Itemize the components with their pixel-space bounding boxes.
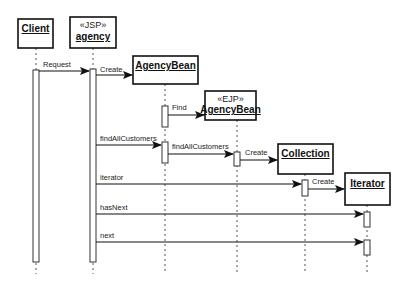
message-label: Find [172, 103, 187, 112]
activation-iterator-next [364, 240, 370, 255]
activation-agencybean-find [162, 106, 168, 127]
message-label: iterator [100, 173, 124, 182]
message-label: Request [43, 60, 72, 69]
message-label: Create [100, 65, 123, 74]
activation-ejp-findall [234, 152, 240, 166]
activation-iterator-hasnext [364, 212, 370, 227]
message-label: next [100, 231, 115, 240]
participant-name: Client [22, 23, 50, 34]
participant-name: AgencyBean [200, 104, 261, 115]
participant-name: Iterator [350, 178, 385, 189]
activation-collection [302, 180, 308, 196]
activation-client [33, 70, 39, 262]
participant-name: agency [76, 31, 111, 42]
message-label: Create [312, 177, 335, 186]
participant-name: AgencyBean [135, 60, 196, 71]
activation-agency [90, 69, 96, 262]
message-label: hasNext [100, 203, 128, 212]
participant-stereotype: «EJP» [217, 94, 244, 104]
participant-name: Collection [281, 148, 329, 159]
sequence-diagram: Client «JSP» agency AgencyBean «EJP» Age… [0, 0, 411, 288]
activation-agencybean-findall [162, 142, 168, 163]
message-label: findAllCustomers [172, 142, 229, 151]
message-label: findAllCustomers [100, 134, 157, 143]
message-label: Create [245, 148, 268, 157]
participant-stereotype: «JSP» [80, 20, 107, 30]
